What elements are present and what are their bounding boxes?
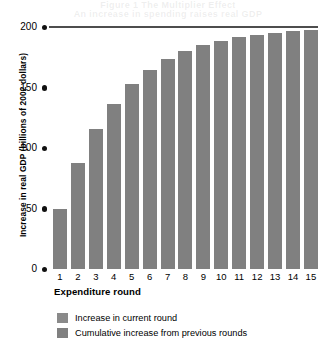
y-axis-tick-label: 200	[20, 21, 37, 33]
y-axis-tick-label: 50	[26, 203, 37, 215]
legend-item: Increase in current round	[57, 311, 247, 325]
bar-slot	[232, 27, 246, 269]
y-axis-tick-dot	[42, 146, 48, 152]
bar	[286, 31, 300, 269]
x-axis-tick-label: 5	[125, 271, 139, 282]
plot-area: Increase in real GDP (billions of 2002 d…	[0, 0, 328, 282]
bar	[143, 70, 157, 269]
bar-slot	[250, 27, 264, 269]
x-axis-tick-label: 9	[196, 271, 210, 282]
bar	[214, 41, 228, 269]
bar	[89, 129, 103, 269]
bar-slot	[178, 27, 192, 269]
x-axis-tick-label: 8	[178, 271, 192, 282]
bar-slot	[53, 27, 67, 269]
bar-slot	[161, 27, 175, 269]
bar	[250, 35, 264, 269]
x-axis-tick-label: 14	[286, 271, 300, 282]
legend-label: Increase in current round	[75, 313, 177, 323]
y-axis-tick-label: 150	[20, 82, 37, 94]
y-axis-tick: 200	[0, 21, 49, 33]
bar	[71, 163, 85, 269]
bar	[107, 104, 121, 269]
y-axis-tick-label: 100	[20, 142, 37, 154]
x-axis-tick-label: 15	[304, 271, 318, 282]
bar	[196, 45, 210, 269]
bar	[125, 84, 139, 269]
bar	[232, 37, 246, 269]
legend-label: Cumulative increase from previous rounds	[75, 328, 247, 338]
x-axis-tick-label: 2	[71, 271, 85, 282]
bar-slot	[214, 27, 228, 269]
bar-slot	[71, 27, 85, 269]
bar-slot	[304, 27, 318, 269]
bar-slot	[286, 27, 300, 269]
y-axis-tick: 0	[0, 263, 49, 275]
y-axis-tick-dot	[42, 206, 48, 212]
bar	[161, 59, 175, 269]
y-axis-tick-dot	[42, 267, 48, 273]
x-axis-tick-label: 7	[161, 271, 175, 282]
y-axis-tick-dot	[42, 25, 48, 31]
x-axis-tick-labels: 123456789101112131415	[53, 271, 318, 282]
chart-legend: Increase in current roundCumulative incr…	[57, 311, 247, 341]
y-axis-tick: 150	[0, 82, 49, 94]
x-axis-tick-label: 12	[250, 271, 264, 282]
x-axis-tick-label: 4	[107, 271, 121, 282]
bar	[178, 51, 192, 269]
bar	[304, 30, 318, 269]
y-axis-tick: 50	[0, 203, 49, 215]
bar-slot	[107, 27, 121, 269]
bar	[268, 33, 282, 269]
x-axis-tick-label: 1	[53, 271, 67, 282]
x-axis-tick-label: 13	[268, 271, 282, 282]
x-axis-tick-label: 11	[232, 271, 246, 282]
legend-item: Cumulative increase from previous rounds	[57, 326, 247, 340]
bar-slot	[143, 27, 157, 269]
y-axis-tick-dot	[42, 85, 48, 91]
y-axis-tick-label: 0	[31, 263, 37, 275]
bar-slot	[196, 27, 210, 269]
bar-slot	[125, 27, 139, 269]
bar-slot	[268, 27, 282, 269]
bar-slot	[89, 27, 103, 269]
x-axis-tick-label: 6	[143, 271, 157, 282]
legend-swatch	[57, 313, 68, 323]
x-axis-tick-label: 3	[89, 271, 103, 282]
chart-figure: Figure 1 The Multiplier Effect An increa…	[0, 0, 328, 361]
bar-series	[53, 27, 318, 269]
y-axis-tick: 100	[0, 142, 49, 154]
legend-swatch	[57, 328, 68, 338]
bar	[53, 209, 67, 270]
x-axis-title: Expenditure round	[54, 286, 141, 297]
x-axis-tick-label: 10	[214, 271, 228, 282]
